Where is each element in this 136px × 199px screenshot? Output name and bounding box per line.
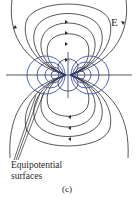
field-label-e: E <box>111 16 118 28</box>
label-pointers <box>14 92 44 160</box>
equipotential-label-line1: Equipotential <box>11 160 62 171</box>
figure-caption: (c) <box>62 184 72 194</box>
equipotential-label: Equipotential surfaces <box>11 160 62 182</box>
equipotential-label-line2: surfaces <box>11 171 62 182</box>
